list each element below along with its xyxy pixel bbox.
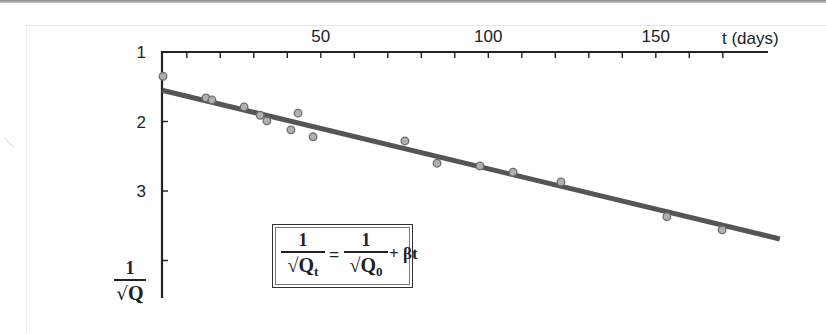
rhs-numerator: 1 bbox=[344, 231, 388, 249]
regression-line bbox=[162, 90, 780, 239]
data-point bbox=[557, 178, 565, 186]
data-point bbox=[401, 137, 409, 145]
x-tick-label: 100 bbox=[474, 27, 502, 46]
formula-lhs: 1 √Qt bbox=[281, 231, 325, 283]
fraction-bar bbox=[281, 251, 325, 253]
x-tick-label: 150 bbox=[642, 27, 670, 46]
fit-line bbox=[162, 90, 780, 239]
lhs-numerator: 1 bbox=[281, 231, 325, 249]
rhs-subscript: 0 bbox=[376, 264, 383, 279]
x-axis-title: t (days) bbox=[722, 29, 779, 48]
y-title-denominator: Q bbox=[128, 282, 144, 304]
data-point bbox=[208, 96, 216, 104]
data-point bbox=[256, 111, 264, 119]
data-point bbox=[263, 117, 271, 125]
formula-box: 1 √Qt = 1 √Q0 + βt bbox=[272, 224, 413, 288]
data-point bbox=[663, 213, 671, 221]
sqrt-symbol: √ bbox=[288, 254, 299, 276]
sqrt-symbol: √ bbox=[349, 254, 360, 276]
data-point bbox=[240, 103, 248, 111]
data-points bbox=[159, 73, 726, 234]
data-point bbox=[718, 226, 726, 234]
rhs-denominator: Q bbox=[360, 254, 376, 276]
equals-sign: = bbox=[329, 245, 339, 266]
y-tick-label: 3 bbox=[137, 182, 146, 201]
data-point bbox=[309, 133, 317, 141]
y-title-numerator: 1 bbox=[110, 259, 150, 277]
sqrt-symbol: √ bbox=[116, 283, 127, 304]
y-axis-labels: 123 bbox=[137, 43, 146, 201]
x-axis-labels: 50100150 bbox=[311, 27, 670, 46]
fraction-bar bbox=[344, 251, 388, 253]
lhs-subscript: t bbox=[314, 264, 318, 279]
data-point bbox=[476, 162, 484, 170]
fraction-bar bbox=[114, 279, 146, 281]
data-point bbox=[159, 73, 167, 81]
x-tick-label: 50 bbox=[311, 27, 330, 46]
lhs-denominator: Q bbox=[299, 254, 315, 276]
data-point bbox=[287, 126, 295, 134]
y-tick-label: 1 bbox=[137, 43, 146, 62]
formula-rhs: 1 √Q0 bbox=[344, 231, 388, 283]
y-tick-label: 2 bbox=[137, 113, 146, 132]
data-point bbox=[294, 109, 302, 117]
data-point bbox=[433, 159, 441, 167]
data-point bbox=[509, 168, 517, 176]
beta-t-term: + βt bbox=[389, 244, 418, 264]
